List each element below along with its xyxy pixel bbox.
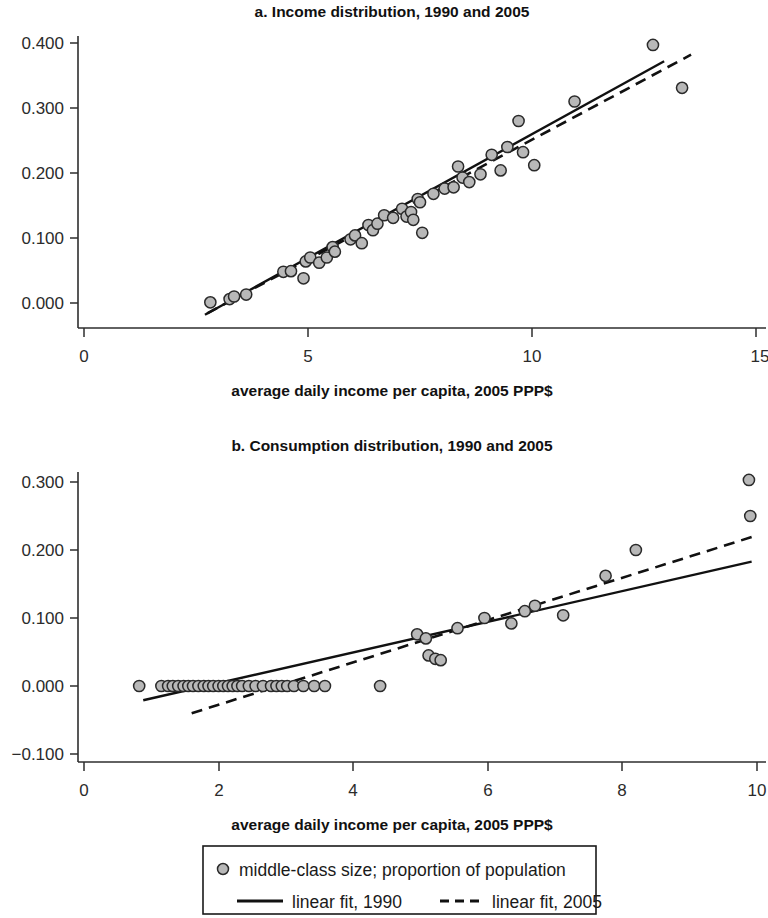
scatter-point <box>464 177 475 188</box>
scatter-point <box>134 680 145 691</box>
scatter-point <box>356 238 367 249</box>
scatter-point <box>417 227 428 238</box>
scatter-point <box>408 214 419 225</box>
scatter-point <box>479 612 490 623</box>
scatter-point <box>517 147 528 158</box>
scatter-point <box>285 266 296 277</box>
panel-b-xtick-label-1: 2 <box>214 781 223 800</box>
scatter-point <box>745 510 756 521</box>
scatter-point <box>676 82 687 93</box>
scatter-point <box>298 680 309 691</box>
legend-fit-2005-label: linear fit, 2005 <box>492 892 602 912</box>
scatter-point <box>519 606 530 617</box>
scatter-point <box>529 160 540 171</box>
panel-b-ytick-label-2: 0.100 <box>21 609 64 628</box>
scatter-point <box>452 161 463 172</box>
scatter-point <box>529 600 540 611</box>
scatter-point <box>319 680 330 691</box>
panel-b-xtick-label-2: 4 <box>348 781 357 800</box>
legend-points-label: middle-class size; proportion of populat… <box>239 860 566 880</box>
panel-b-title: b. Consumption distribution, 1990 and 20… <box>231 437 553 454</box>
panel-b-consumption-distribution: b. Consumption distribution, 1990 and 20… <box>12 437 767 833</box>
scatter-point <box>329 246 340 257</box>
panel-a-x-axis-label: average daily income per capita, 2005 PP… <box>231 382 553 399</box>
scatter-point <box>630 544 641 555</box>
scatter-point <box>309 680 320 691</box>
panel-b-plot-area <box>134 474 756 713</box>
panel-b-xtick-label-0: 0 <box>79 781 88 800</box>
scatter-point <box>513 115 524 126</box>
panel-b-x-ticks: 0 2 4 6 8 10 <box>79 762 766 800</box>
scatter-point <box>743 474 754 485</box>
panel-a-xtick-label-0: 0 <box>79 347 88 366</box>
scatter-point <box>569 96 580 107</box>
scatter-point <box>298 273 309 284</box>
scatter-point <box>375 680 386 691</box>
panel-a-ytick-label-1: 0.100 <box>21 229 64 248</box>
panel-b-xtick-label-5: 10 <box>748 781 767 800</box>
panel-a-x-ticks: 0 5 10 15 <box>79 328 768 366</box>
panel-a-y-ticks: 0.000 0.100 0.200 0.300 0.400 <box>21 34 78 313</box>
panel-b-ytick-label-3: 0.200 <box>21 541 64 560</box>
panel-a-ytick-label-3: 0.300 <box>21 99 64 118</box>
panel-a-income-distribution: a. Income distribution, 1990 and 2005 0.… <box>21 3 768 399</box>
legend-fit-1990-label: linear fit, 1990 <box>292 892 402 912</box>
scatter-point <box>205 297 216 308</box>
panel-b-ytick-label-0: −0.100 <box>12 745 64 764</box>
legend-scatter-marker-icon <box>218 864 229 875</box>
panel-a-xtick-label-1: 5 <box>303 347 312 366</box>
scatter-point <box>502 141 513 152</box>
panel-b-fit-1990 <box>143 562 751 701</box>
scatter-point <box>486 149 497 160</box>
panel-b-xtick-label-3: 6 <box>483 781 492 800</box>
panel-b-fit-1990-line <box>143 562 751 701</box>
scatter-point <box>428 188 439 199</box>
panel-a-xtick-label-2: 10 <box>523 347 542 366</box>
scatter-point <box>414 197 425 208</box>
scatter-point <box>241 289 252 300</box>
panel-a-plot-area <box>205 39 691 314</box>
legend: middle-class size; proportion of populat… <box>203 846 602 914</box>
panel-a-scatter-points <box>205 39 688 308</box>
panel-b-xtick-label-4: 8 <box>617 781 626 800</box>
scatter-point <box>420 633 431 644</box>
scatter-point <box>435 655 446 666</box>
panel-b-ytick-label-1: 0.000 <box>21 677 64 696</box>
scatter-point <box>388 212 399 223</box>
panel-a-ytick-label-0: 0.000 <box>21 294 64 313</box>
panel-a-ytick-label-4: 0.400 <box>21 34 64 53</box>
scatter-point <box>647 39 658 50</box>
scatter-point <box>495 165 506 176</box>
panel-b-y-ticks: −0.100 0.000 0.100 0.200 0.300 <box>12 473 78 764</box>
income-consumption-distribution-figure: a. Income distribution, 1990 and 2005 0.… <box>0 0 768 918</box>
scatter-point <box>558 610 569 621</box>
panel-a-xtick-label-3: 15 <box>751 347 768 366</box>
panel-b-ytick-label-4: 0.300 <box>21 473 64 492</box>
panel-a-title: a. Income distribution, 1990 and 2005 <box>255 3 530 20</box>
scatter-point <box>475 169 486 180</box>
scatter-point <box>506 618 517 629</box>
scatter-point <box>452 623 463 634</box>
panel-a-ytick-label-2: 0.200 <box>21 164 64 183</box>
scatter-point <box>600 570 611 581</box>
panel-b-x-axis-label: average daily income per capita, 2005 PP… <box>231 816 553 833</box>
scatter-point <box>228 291 239 302</box>
scatter-point <box>448 182 459 193</box>
